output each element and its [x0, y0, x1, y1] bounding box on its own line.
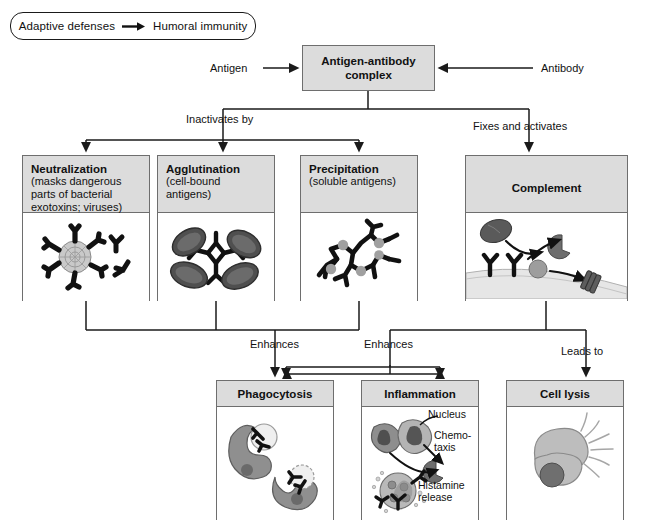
neutralization-subtitle: (masks dangerous parts of bacterial exot…: [31, 175, 141, 215]
inflammation-illustration: Nucleus Chemo- taxis Histamine release: [362, 407, 478, 520]
annotation-chemotaxis-line1: Chemo-: [434, 429, 471, 441]
node-precipitation: Precipitation (soluble antigens): [300, 155, 418, 301]
node-inflammation: Inflammation: [361, 380, 479, 520]
breadcrumb-right-label: Humoral immunity: [153, 20, 247, 32]
precipitation-subtitle: (soluble antigens): [309, 175, 409, 188]
cell-lysis-header: Cell lysis: [507, 381, 623, 407]
node-phagocytosis: Phagocytosis: [216, 380, 334, 520]
neutralization-title: Neutralization: [31, 163, 141, 175]
phagocytosis-header: Phagocytosis: [217, 381, 333, 407]
node-cell-lysis: Cell lysis: [506, 380, 624, 520]
breadcrumb-left-label: Adaptive defenses: [19, 20, 115, 32]
label-antigen: Antigen: [210, 62, 247, 74]
label-antibody: Antibody: [541, 62, 584, 74]
breadcrumb-pill: Adaptive defenses Humoral immunity: [10, 12, 256, 40]
label-fixes-and-activates: Fixes and activates: [473, 120, 567, 132]
neutralization-illustration: [23, 213, 149, 301]
label-leads-to: Leads to: [561, 345, 603, 357]
agglutination-subtitle: (cell-bound antigens): [166, 175, 266, 201]
annotation-histamine: Histamine release: [418, 479, 465, 503]
cell-lysis-title: Cell lysis: [540, 388, 590, 400]
annotation-histamine-line1: Histamine: [418, 479, 465, 491]
annotation-histamine-line2: release: [418, 491, 465, 503]
node-complement: Complement: [465, 155, 628, 301]
precipitation-title: Precipitation: [309, 163, 409, 175]
cell-lysis-illustration: [507, 407, 623, 520]
inflammation-header: Inflammation: [362, 381, 478, 407]
complement-title: Complement: [512, 182, 582, 194]
neutralization-header: Neutralization (masks dangerous parts of…: [23, 156, 149, 213]
agglutination-title: Agglutination: [166, 163, 266, 175]
precipitation-illustration: [301, 213, 417, 301]
label-enhances-left: Enhances: [250, 338, 299, 350]
node-agglutination: Agglutination (cell-bound antigens): [157, 155, 275, 301]
node-neutralization: Neutralization (masks dangerous parts of…: [22, 155, 150, 301]
complement-illustration: [466, 213, 627, 301]
node-title: Antigen-antibody complex: [303, 46, 434, 90]
precipitation-header: Precipitation (soluble antigens): [301, 156, 417, 213]
annotation-nucleus: Nucleus: [428, 408, 466, 420]
phagocytosis-illustration: [217, 407, 333, 520]
agglutination-illustration: [158, 213, 274, 301]
inflammation-title: Inflammation: [384, 388, 456, 400]
arrow-right-icon: [122, 22, 146, 31]
complement-header: Complement: [466, 156, 627, 213]
annotation-chemotaxis-line2: taxis: [434, 441, 471, 453]
phagocytosis-title: Phagocytosis: [238, 388, 313, 400]
annotation-chemotaxis: Chemo- taxis: [434, 429, 471, 453]
agglutination-header: Agglutination (cell-bound antigens): [158, 156, 274, 213]
label-enhances-right: Enhances: [364, 338, 413, 350]
node-antigen-antibody-complex: Antigen-antibody complex: [302, 45, 435, 91]
label-inactivates-by: Inactivates by: [186, 113, 253, 125]
